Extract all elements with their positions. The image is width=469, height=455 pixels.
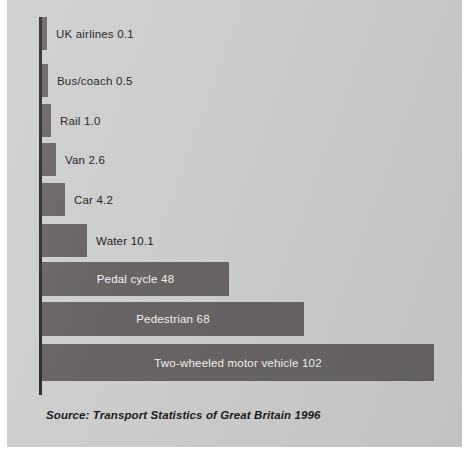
bar-row: Water 10.1: [42, 224, 87, 257]
bar-row: Two-wheeled motor vehicle 102: [42, 344, 434, 381]
bar-rect: [42, 17, 47, 50]
plot-area: UK airlines 0.1 Bus/coach 0.5 Rail 1.0 V…: [7, 0, 462, 447]
bar-rect: [42, 104, 51, 137]
bar-row: Pedestrian 68: [42, 302, 304, 336]
bar-rect: [42, 143, 56, 176]
bar-row: Rail 1.0: [42, 104, 51, 137]
bar-label: Van 2.6: [65, 154, 105, 166]
bar-label: Water 10.1: [96, 235, 154, 247]
bar-label: Bus/coach 0.5: [57, 75, 132, 87]
source-note: Source: Transport Statistics of Great Br…: [46, 409, 320, 421]
bar-label: Rail 1.0: [60, 115, 101, 127]
bar-label: Car 4.2: [74, 194, 113, 206]
bar-row: UK airlines 0.1: [42, 17, 47, 50]
bar-label: Two-wheeled motor vehicle 102: [42, 357, 434, 369]
bar-label: Pedestrian 68: [42, 313, 304, 325]
bar-rect: [42, 183, 65, 216]
bar-rect: [42, 64, 48, 97]
bar-label: UK airlines 0.1: [56, 28, 134, 40]
bar-row: Van 2.6: [42, 143, 56, 176]
bar-row: Bus/coach 0.5: [42, 64, 48, 97]
bar-label: Pedal cycle 48: [42, 273, 229, 285]
bar-row: Car 4.2: [42, 183, 65, 216]
bar-row: Pedal cycle 48: [42, 262, 229, 296]
chart-plate: UK airlines 0.1 Bus/coach 0.5 Rail 1.0 V…: [7, 0, 462, 447]
bar-rect: [42, 224, 87, 257]
bar-chart-figure: UK airlines 0.1 Bus/coach 0.5 Rail 1.0 V…: [0, 0, 469, 455]
